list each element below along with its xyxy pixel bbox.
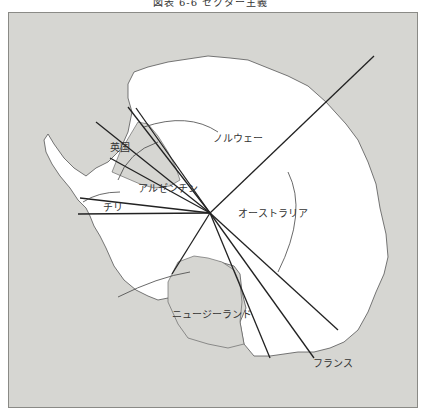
label-new-zealand: ニュージーランド — [172, 306, 252, 321]
ross-sea-inlet — [168, 256, 244, 348]
antarctica-map — [8, 12, 418, 408]
label-norway: ノルウェー — [213, 130, 263, 145]
label-uk: 英国 — [110, 139, 130, 154]
label-australia: オーストラリア — [238, 205, 308, 220]
label-argentina: アルゼンチン — [138, 180, 198, 195]
label-chile: チリ — [103, 199, 123, 214]
figure-title: 図表 6-6 セクター主義 — [0, 0, 421, 9]
label-france: フランス — [313, 355, 353, 370]
